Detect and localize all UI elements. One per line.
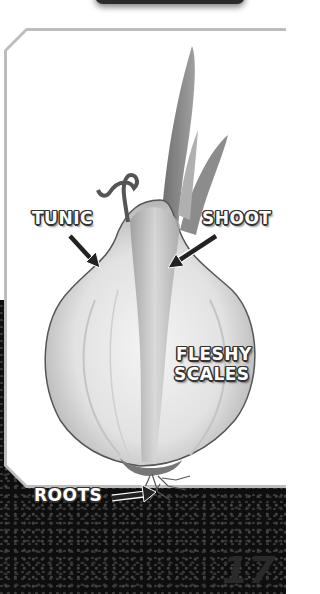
roots-label: ROOTS [34, 487, 102, 505]
roots-arrow-icon [112, 485, 156, 502]
fleshy-scales-label-line1: FLESHY [176, 346, 252, 364]
page-number: 17 [222, 548, 275, 592]
tunic-label: TUNIC [32, 210, 93, 228]
fleshy-scales-label-line2: SCALES [174, 366, 250, 384]
tunic-arrow-icon [70, 236, 100, 268]
shoot-label: SHOOT [202, 210, 271, 228]
